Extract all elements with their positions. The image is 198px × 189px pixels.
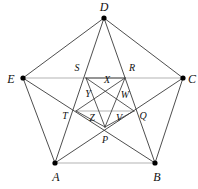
- vertex-dot-e: [20, 75, 25, 80]
- label-point-x: X: [104, 75, 110, 85]
- vertex-dot-b: [152, 160, 157, 165]
- edge-d-c: [104, 18, 183, 78]
- label-point-w: W: [121, 90, 129, 100]
- label-point-s: S: [75, 63, 80, 73]
- vertex-dot-d: [101, 15, 106, 20]
- label-vertex-e: E: [7, 73, 14, 85]
- label-point-q: Q: [139, 111, 146, 121]
- edge-c-b: [155, 78, 183, 163]
- diagram-canvas: [0, 0, 198, 189]
- label-point-y: Y: [85, 89, 91, 99]
- label-vertex-c: C: [188, 73, 196, 85]
- diagonal-b-d: [104, 18, 155, 163]
- inner-line-r-t: [76, 78, 125, 111]
- vertex-dot-a: [52, 160, 57, 165]
- label-point-t: T: [62, 111, 68, 121]
- label-point-z: Z: [89, 113, 95, 123]
- label-vertex-d: D: [100, 1, 109, 13]
- label-point-r: R: [129, 63, 135, 73]
- label-vertex-b: B: [153, 171, 160, 183]
- label-point-p: P: [102, 135, 108, 145]
- edge-e-d: [23, 18, 104, 78]
- inner-star-lines: [76, 78, 134, 127]
- vertex-dot-c: [180, 75, 185, 80]
- label-vertex-a: A: [52, 171, 59, 183]
- pentagon-diagram: D C B A E R Q P T S X W V Z Y: [0, 0, 198, 189]
- edge-a-e: [23, 78, 55, 163]
- diagonal-a-d: [55, 18, 104, 163]
- label-point-v: V: [116, 113, 122, 123]
